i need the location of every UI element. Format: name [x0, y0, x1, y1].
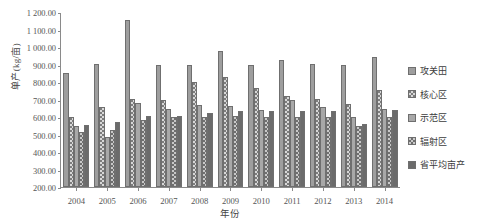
bar-group: 2012: [308, 13, 339, 187]
x-axis-tick-mark: [230, 187, 231, 191]
y-axis-tick-label: 300.00: [5, 166, 61, 175]
bar-group: 2009: [215, 13, 246, 187]
bar-2011-series-4[interactable]: [300, 111, 305, 187]
x-axis-tick-mark: [107, 187, 108, 191]
bar-2013-series-4[interactable]: [362, 124, 367, 187]
plot-area: 1 200.001 100.001 000.00900.00800.00700.…: [60, 13, 400, 188]
bar-group-bars: [184, 13, 215, 187]
x-axis-tick-mark: [200, 187, 201, 191]
legend-swatch-icon: [408, 114, 416, 122]
bar-group-bars: [61, 13, 92, 187]
bar-group: 2014: [369, 13, 400, 187]
bar-2007-series-4[interactable]: [177, 116, 182, 187]
bar-group-bars: [123, 13, 154, 187]
bar-2014-series-4[interactable]: [392, 110, 397, 187]
bar-group-bars: [153, 13, 184, 187]
x-axis-tick-label: 2014: [359, 196, 410, 206]
y-axis-tick-label: 900.00: [5, 61, 61, 70]
legend-item-1[interactable]: 核心区: [408, 88, 496, 101]
bar-group: 2008: [184, 13, 215, 187]
x-axis-tick-mark: [169, 187, 170, 191]
legend-label: 辐射区: [420, 135, 447, 148]
y-axis-tick-label: 700.00: [5, 96, 61, 105]
legend-swatch-icon: [408, 161, 416, 169]
y-axis-tick-label: 1 100.00: [5, 26, 61, 35]
legend-item-3[interactable]: 辐射区: [408, 135, 496, 148]
y-axis-tick-label: 1 000.00: [5, 44, 61, 53]
bar-group: 2011: [277, 13, 308, 187]
bar-2012-series-4[interactable]: [331, 111, 336, 187]
legend-item-2[interactable]: 示范区: [408, 111, 496, 124]
bar-group-bars: [369, 13, 400, 187]
y-axis-tick-label: 1 200.00: [5, 9, 61, 18]
y-axis-tick-mark: [58, 188, 61, 189]
bar-group-bars: [308, 13, 339, 187]
x-axis-tick-mark: [354, 187, 355, 191]
bar-2008-series-4[interactable]: [207, 113, 212, 187]
x-axis-tick-mark: [76, 187, 77, 191]
y-axis-tick-label: 400.00: [5, 149, 61, 158]
x-axis-tick-mark: [292, 187, 293, 191]
bar-group-bars: [277, 13, 308, 187]
x-axis-tick-mark: [385, 187, 386, 191]
y-axis-tick-label: 500.00: [5, 131, 61, 140]
legend-label: 示范区: [420, 111, 447, 124]
bar-group-bars: [215, 13, 246, 187]
bar-2005-series-4[interactable]: [115, 122, 120, 187]
bar-group: 2010: [246, 13, 277, 187]
bar-group-bars: [92, 13, 123, 187]
bar-2006-series-4[interactable]: [146, 116, 151, 187]
bar-group: 2006: [123, 13, 154, 187]
legend-item-0[interactable]: 攻关田: [408, 64, 496, 77]
x-axis-tick-mark: [138, 187, 139, 191]
chart-legend: 攻关田核心区示范区辐射区省平均亩产: [408, 64, 496, 171]
bar-chart: 单产(kg/亩) 年份 1 200.001 100.001 000.00900.…: [0, 0, 496, 224]
bar-group: 2004: [61, 13, 92, 187]
bar-group-bars: [246, 13, 277, 187]
x-axis-title: 年份: [60, 206, 400, 220]
x-axis-tick-mark: [323, 187, 324, 191]
legend-label: 攻关田: [420, 64, 447, 77]
legend-swatch-icon: [408, 90, 416, 98]
legend-item-4[interactable]: 省平均亩产: [408, 158, 496, 171]
bar-2004-series-4[interactable]: [84, 125, 89, 187]
y-axis-tick-label: 200.00: [5, 184, 61, 193]
bar-group-bars: [338, 13, 369, 187]
y-axis-tick-label: 800.00: [5, 79, 61, 88]
bar-group: 2005: [92, 13, 123, 187]
legend-label: 核心区: [420, 88, 447, 101]
bar-2010-series-4[interactable]: [269, 111, 274, 187]
bar-group: 2013: [338, 13, 369, 187]
y-axis-tick-label: 600.00: [5, 114, 61, 123]
bar-groups: 2004200520062007200820092010201120122013…: [61, 13, 400, 187]
bar-2009-series-4[interactable]: [238, 111, 243, 187]
legend-swatch-icon: [408, 137, 416, 145]
legend-swatch-icon: [408, 67, 416, 75]
x-axis-tick-mark: [261, 187, 262, 191]
legend-label: 省平均亩产: [420, 158, 465, 171]
bar-group: 2007: [153, 13, 184, 187]
